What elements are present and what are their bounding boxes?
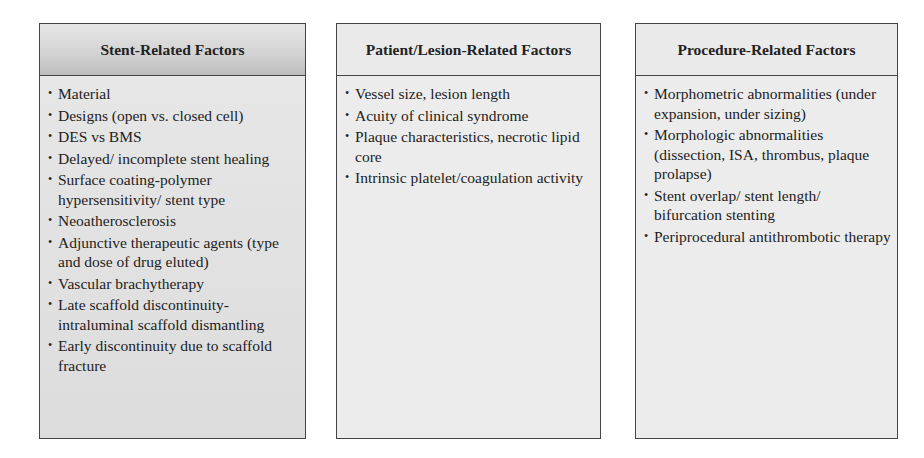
stent-related-factors-box: Stent-Related Factors Material Designs (… <box>39 23 306 439</box>
list-item: Adjunctive therapeutic agents (type and … <box>48 233 299 272</box>
list-item: Acuity of clinical syndrome <box>345 106 594 126</box>
list-item: Delayed/ incomplete stent healing <box>48 149 299 169</box>
factor-list: Morphometric abnormalities (under expans… <box>636 76 897 246</box>
list-item: Surface coating-polymer hypersensitivity… <box>48 170 299 209</box>
list-item: Early discontinuity due to scaffold frac… <box>48 336 299 375</box>
list-item: Neoatherosclerosis <box>48 211 299 231</box>
list-item: Intrinsic platelet/coagulation activity <box>345 168 594 188</box>
box-title: Stent-Related Factors <box>40 24 305 76</box>
list-item: DES vs BMS <box>48 127 299 147</box>
factor-list: Material Designs (open vs. closed cell) … <box>40 76 305 375</box>
patient-lesion-related-factors-box: Patient/Lesion-Related Factors Vessel si… <box>336 23 601 439</box>
list-item: Vessel size, lesion length <box>345 84 594 104</box>
list-item: Plaque characteristics, necrotic lipid c… <box>345 127 594 166</box>
list-item: Periprocedural antithrombotic therapy <box>644 227 891 247</box>
list-item: Material <box>48 84 299 104</box>
procedure-related-factors-box: Procedure-Related Factors Morphometric a… <box>635 23 898 439</box>
factor-list: Vessel size, lesion length Acuity of cli… <box>337 76 600 188</box>
list-item: Morphologic abnormalities (dissection, I… <box>644 125 891 184</box>
list-item: Morphometric abnormalities (under expans… <box>644 84 891 123</box>
box-title: Procedure-Related Factors <box>636 24 897 76</box>
list-item: Vascular brachytherapy <box>48 274 299 294</box>
box-title: Patient/Lesion-Related Factors <box>337 24 600 76</box>
list-item: Late scaffold discontinuity-intraluminal… <box>48 295 299 334</box>
list-item: Designs (open vs. closed cell) <box>48 106 299 126</box>
list-item: Stent overlap/ stent length/ bifurcation… <box>644 186 891 225</box>
